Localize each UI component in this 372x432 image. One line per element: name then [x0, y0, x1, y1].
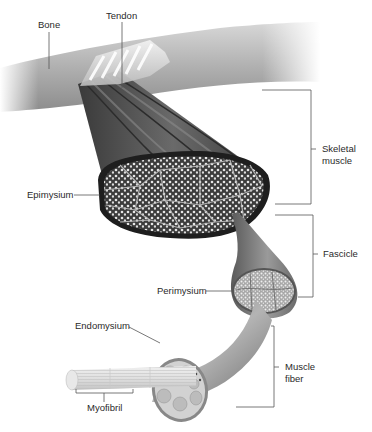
myofibril-shape — [66, 366, 196, 390]
epimysium-label: Epimysium — [27, 189, 73, 200]
muscle-fiber-label: Muscle fiber — [285, 361, 315, 385]
muscle-structure-diagram: Bone Tendon Epimysium Perimysium Endomys… — [0, 0, 372, 432]
tendon-label: Tendon — [106, 10, 137, 21]
fascicle-label: Fascicle — [323, 248, 358, 259]
diagram-illustration — [0, 0, 372, 432]
myofibril-label: Myofibril — [87, 402, 122, 413]
muscle-fiber-shape — [147, 300, 272, 426]
fascicle-shape — [231, 212, 297, 318]
perimysium-label: Perimysium — [157, 285, 207, 296]
bone-label: Bone — [38, 19, 60, 30]
endomysium-label: Endomysium — [75, 320, 130, 331]
skeletal-muscle-label: Skeletal muscle — [322, 143, 356, 167]
